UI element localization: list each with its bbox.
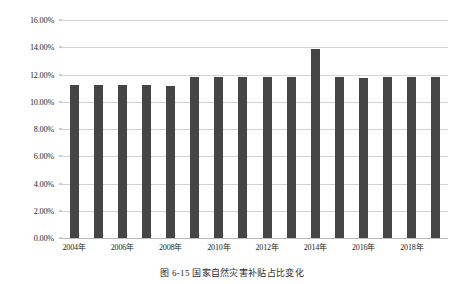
bar	[407, 77, 416, 238]
y-axis-tick-label: 12.00%	[30, 70, 54, 79]
x-axis-tick-label: 2004年	[63, 241, 86, 252]
x-axis-tick-label: 2016年	[352, 241, 375, 252]
figure-container: 0.00%2.00%4.00%6.00%8.00%10.00%12.00%14.…	[0, 0, 464, 284]
bar	[359, 78, 368, 239]
bar	[287, 77, 296, 238]
x-axis-tick-label: 2018年	[400, 241, 423, 252]
y-axis-tick-label: 6.00%	[34, 152, 54, 161]
bar	[335, 77, 344, 238]
bar	[70, 85, 79, 238]
bar	[263, 77, 272, 238]
x-axis-tick-label: 2006年	[111, 241, 134, 252]
bar	[214, 77, 223, 238]
y-axis-tick-label: 0.00%	[34, 234, 54, 243]
y-axis-tick-label: 16.00%	[30, 16, 54, 25]
gridline-0	[62, 238, 448, 239]
bar	[431, 77, 440, 238]
bar	[142, 85, 151, 238]
y-axis-tick-label: 2.00%	[34, 206, 54, 215]
bar	[311, 49, 320, 238]
bar	[190, 77, 199, 238]
y-axis-tick-label: 4.00%	[34, 179, 54, 188]
bars-group	[62, 20, 448, 238]
bar	[166, 86, 175, 238]
bar	[383, 77, 392, 238]
y-axis-tick-label: 10.00%	[30, 97, 54, 106]
x-axis-labels: 2004年2006年2008年2010年2012年2014年2016年2018年	[62, 241, 448, 255]
bar-chart: 0.00%2.00%4.00%6.00%8.00%10.00%12.00%14.…	[0, 0, 464, 262]
y-axis-tick-label: 14.00%	[30, 43, 54, 52]
x-axis-tick-label: 2008年	[159, 241, 182, 252]
x-axis-tick-label: 2010年	[207, 241, 230, 252]
bar	[238, 77, 247, 238]
bar	[94, 85, 103, 238]
y-axis-tick-label: 8.00%	[34, 125, 54, 134]
x-axis-tick-label: 2012年	[256, 241, 279, 252]
y-axis-labels: 0.00%2.00%4.00%6.00%8.00%10.00%12.00%14.…	[0, 20, 58, 238]
figure-caption: 图 6-15 国家自然灾害补贴占比变化	[0, 266, 464, 284]
bar	[118, 85, 127, 238]
x-axis-tick-label: 2014年	[304, 241, 327, 252]
